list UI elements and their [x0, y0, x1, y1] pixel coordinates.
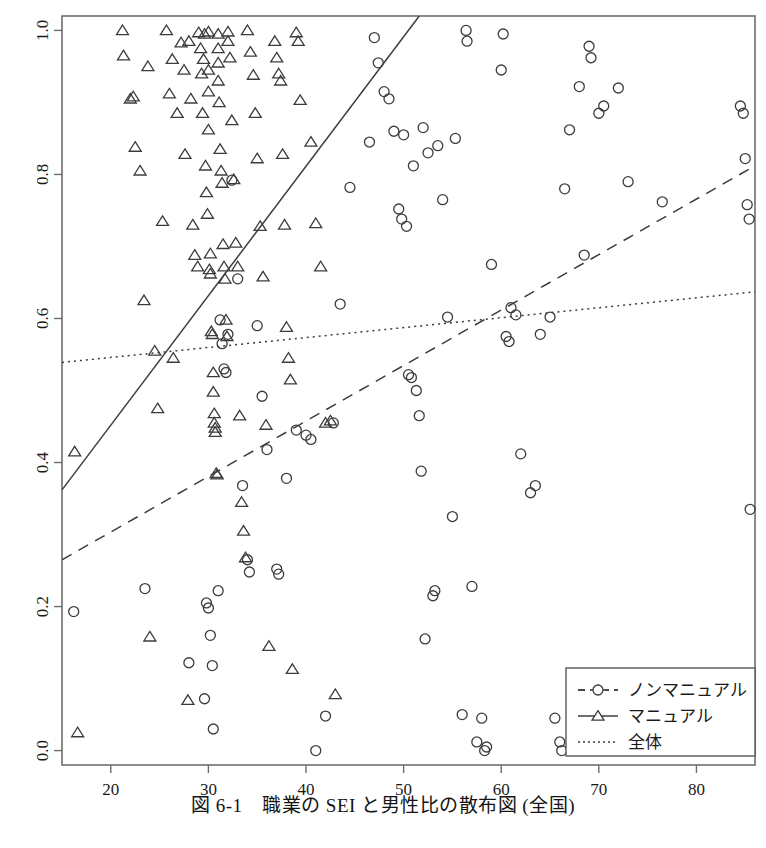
data-point-triangle — [204, 248, 216, 258]
data-point-circle — [244, 567, 254, 577]
data-point-circle — [257, 391, 267, 401]
data-point-triangle — [244, 47, 256, 57]
legend-marker-circle — [593, 685, 603, 695]
data-point-circle — [389, 126, 399, 136]
data-point-circle — [200, 694, 210, 704]
data-point-circle — [482, 742, 492, 752]
data-point-circle — [252, 321, 262, 331]
data-point-circle — [208, 724, 218, 734]
data-point-triangle — [216, 178, 228, 188]
data-point-triangle — [198, 54, 210, 64]
data-point-circle — [402, 221, 412, 231]
data-point-triangle — [212, 57, 224, 67]
data-point-triangle — [179, 149, 191, 159]
y-axis-ticks: 0.00.20.40.60.81.0 — [33, 20, 62, 761]
data-point-circle — [369, 33, 379, 43]
data-point-circle — [397, 214, 407, 224]
data-point-triangle — [215, 165, 227, 175]
data-point-circle — [414, 411, 424, 421]
data-point-triangle — [187, 219, 199, 229]
data-point-triangle — [226, 115, 238, 125]
data-point-triangle — [329, 689, 341, 699]
data-point-circle — [416, 466, 426, 476]
data-point-circle — [530, 481, 540, 491]
y-tick-label: 0.4 — [33, 451, 52, 473]
data-point-triangle — [273, 68, 285, 78]
data-point-triangle — [236, 497, 248, 507]
data-point-triangle — [160, 25, 172, 35]
data-point-circle — [550, 713, 560, 723]
data-point-triangle — [144, 631, 156, 641]
data-point-triangle — [134, 165, 146, 175]
data-point-circle — [477, 713, 487, 723]
data-point-circle — [321, 711, 331, 721]
fit-line-solid — [62, 16, 419, 490]
data-point-triangle — [138, 295, 150, 305]
data-point-triangle — [152, 403, 164, 413]
y-tick-label: 1.0 — [33, 20, 52, 41]
data-point-circle — [511, 310, 521, 320]
y-tick-label: 0.6 — [33, 308, 52, 329]
data-point-circle — [438, 195, 448, 205]
data-point-circle — [345, 182, 355, 192]
data-point-triangle — [117, 50, 129, 60]
data-point-circle — [745, 504, 755, 514]
data-point-circle — [467, 581, 477, 591]
data-point-triangle — [279, 219, 291, 229]
data-point-triangle — [171, 108, 183, 118]
data-point-circle — [623, 177, 633, 187]
legend-box[interactable]: ノンマニュアルマニュアル全体 — [566, 668, 755, 756]
data-point-triangle — [207, 387, 219, 397]
data-point-triangle — [213, 97, 225, 107]
data-point-circle — [364, 137, 374, 147]
data-point-triangle — [189, 250, 201, 260]
data-point-triangle — [166, 54, 178, 64]
data-point-triangle — [185, 93, 197, 103]
data-point-triangle — [195, 43, 207, 53]
data-point-triangle — [208, 408, 220, 418]
data-point-circle — [404, 370, 414, 380]
data-point-circle — [394, 204, 404, 214]
data-point-triangle — [247, 70, 259, 80]
data-point-triangle — [257, 271, 269, 281]
data-point-circle — [379, 87, 389, 97]
data-point-circle — [399, 130, 409, 140]
legend-label: マニュアル — [628, 707, 713, 726]
data-point-triangle — [217, 239, 229, 249]
data-point-circle — [238, 481, 248, 491]
data-point-triangle — [315, 261, 327, 271]
data-point-triangle — [220, 315, 232, 325]
data-point-circle — [498, 29, 508, 39]
data-point-triangle — [212, 29, 224, 39]
data-point-circle — [450, 133, 460, 143]
data-point-circle — [586, 53, 596, 63]
y-tick-label: 0.2 — [33, 596, 52, 617]
data-point-circle — [281, 473, 291, 483]
data-point-circle — [420, 634, 430, 644]
data-point-triangle — [282, 353, 294, 363]
data-point-triangle — [286, 664, 298, 674]
data-point-triangle — [200, 187, 212, 197]
data-point-triangle — [167, 353, 179, 363]
data-point-triangle — [117, 25, 129, 35]
data-point-circle — [516, 449, 526, 459]
data-point-triangle — [212, 75, 224, 85]
data-point-triangle — [201, 209, 213, 219]
data-point-circle — [423, 148, 433, 158]
data-point-triangle — [280, 322, 292, 332]
data-point-circle — [207, 661, 217, 671]
data-point-circle — [406, 373, 416, 383]
data-point-triangle — [269, 36, 281, 46]
data-point-circle — [311, 746, 321, 756]
data-point-circle — [184, 658, 194, 668]
plot-frame — [62, 16, 755, 765]
data-point-circle — [599, 101, 609, 111]
figure-caption: 図 6-1 職業の SEI と男性比の散布図 (全国) — [0, 790, 766, 817]
data-point-circle — [221, 367, 231, 377]
data-point-triangle — [72, 727, 84, 737]
data-point-triangle — [239, 552, 251, 562]
data-point-triangle — [238, 526, 250, 536]
data-point-circle — [613, 83, 623, 93]
data-point-triangle — [249, 108, 261, 118]
data-point-circle — [408, 161, 418, 171]
